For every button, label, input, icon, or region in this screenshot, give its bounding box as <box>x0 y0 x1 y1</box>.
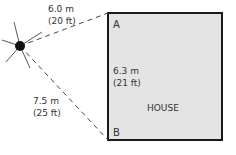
house-rectangle <box>108 13 222 140</box>
side-length-meters: 6.3 m <box>113 66 139 76</box>
distance-a-feet: (20 ft) <box>48 16 76 26</box>
corner-a-label: A <box>113 19 120 30</box>
distance-b-feet: (25 ft) <box>33 108 61 118</box>
measurement-line-to-b <box>20 46 108 140</box>
corner-b-label: B <box>113 127 120 138</box>
side-length-feet: (21 ft) <box>113 78 141 88</box>
reference-point-icon <box>2 22 42 68</box>
distance-a-meters: 6.0 m <box>48 4 74 14</box>
house-label: HOUSE <box>147 103 179 113</box>
distance-b-meters: 7.5 m <box>33 96 59 106</box>
house-triangulation-diagram: 6.0 m (20 ft) 7.5 m (25 ft) A B 6.3 m (2… <box>0 0 236 155</box>
